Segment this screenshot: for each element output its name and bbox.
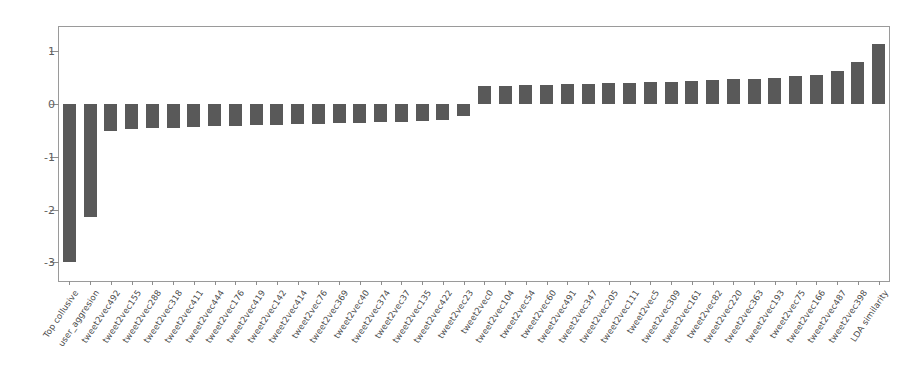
bar xyxy=(478,86,491,103)
bar xyxy=(602,83,615,104)
bar xyxy=(125,104,138,129)
y-axis-tick-label: 0 xyxy=(48,97,55,110)
bar xyxy=(789,76,802,104)
x-axis-labels: Top collusiveuser_aggresiontweet2vec492t… xyxy=(58,282,890,382)
bar xyxy=(312,104,325,124)
bar xyxy=(146,104,159,128)
bar xyxy=(768,78,781,104)
bar xyxy=(374,104,387,123)
y-axis-tick-label: 1 xyxy=(48,44,55,57)
bar xyxy=(229,104,242,126)
bar xyxy=(685,81,698,104)
bar xyxy=(872,44,885,104)
y-axis-tick-label: -3 xyxy=(44,256,55,269)
bar xyxy=(104,104,117,131)
bar xyxy=(167,104,180,128)
bar xyxy=(623,83,636,104)
bar xyxy=(291,104,304,125)
bar xyxy=(333,104,346,124)
bar xyxy=(519,85,532,104)
bar xyxy=(582,84,595,104)
bar xyxy=(831,71,844,104)
bar xyxy=(810,75,823,104)
bar xyxy=(561,84,574,104)
bar xyxy=(270,104,283,125)
y-axis-tick-label: -2 xyxy=(44,203,55,216)
bar-chart-figure: 10-1-2-3 Top collusiveuser_aggresiontwee… xyxy=(0,0,923,382)
bar xyxy=(436,104,449,120)
bars-layer xyxy=(59,27,889,281)
bar xyxy=(540,85,553,104)
bar xyxy=(250,104,263,126)
bar xyxy=(706,80,719,103)
plot-area: 10-1-2-3 xyxy=(58,26,890,282)
bar xyxy=(395,104,408,122)
bar xyxy=(84,104,97,218)
bar xyxy=(457,104,470,117)
bar xyxy=(748,79,761,104)
bar xyxy=(644,82,657,104)
y-axis-tick-label: -1 xyxy=(44,150,55,163)
bar xyxy=(851,62,864,103)
bar xyxy=(63,104,76,263)
bar xyxy=(208,104,221,127)
bar xyxy=(499,86,512,104)
bar xyxy=(187,104,200,127)
bar xyxy=(416,104,429,121)
bar xyxy=(665,82,678,104)
bar xyxy=(353,104,366,123)
bar xyxy=(727,79,740,103)
